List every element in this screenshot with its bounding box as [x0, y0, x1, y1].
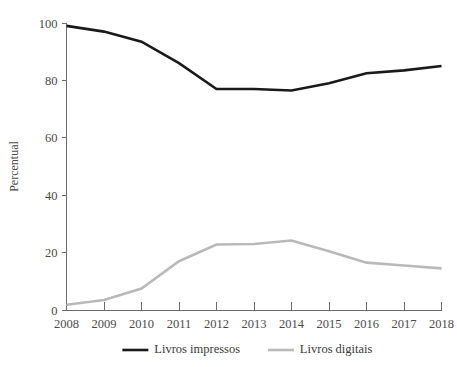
x-tick-label: 2016 [354, 317, 379, 331]
x-tick-label: 2013 [242, 317, 267, 331]
x-tick-label: 2011 [167, 317, 192, 331]
x-tick-label: 2008 [54, 317, 79, 331]
y-tick-label: 0 [51, 304, 57, 318]
line-chart: 020406080100 200820092010201120122013201… [0, 0, 457, 367]
legend-label: Livros digitais [300, 342, 373, 356]
x-tick-label: 2012 [204, 317, 229, 331]
x-tick-label: 2010 [129, 317, 154, 331]
chart-background [0, 0, 457, 367]
y-tick-label: 20 [45, 246, 58, 260]
legend-label: Livros impressos [154, 342, 240, 356]
x-tick-label: 2018 [429, 317, 454, 331]
x-tick-label: 2014 [279, 317, 305, 331]
x-tick-label: 2017 [392, 317, 417, 331]
y-tick-label: 100 [39, 17, 58, 31]
y-axis-title: Percentual [7, 141, 21, 192]
x-tick-label: 2009 [92, 317, 117, 331]
chart-container: 020406080100 200820092010201120122013201… [0, 0, 457, 367]
y-tick-label: 40 [45, 189, 58, 203]
y-tick-label: 60 [45, 131, 58, 145]
y-tick-label: 80 [45, 74, 58, 88]
x-tick-label: 2015 [317, 317, 342, 331]
y-axis-title-text: Percentual [7, 141, 21, 192]
